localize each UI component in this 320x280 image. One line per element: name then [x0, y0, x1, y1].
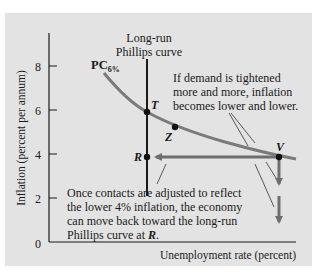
point-T	[144, 109, 150, 115]
note-adjust-line2: the lower 4% inflation, the economy	[67, 200, 242, 214]
lrpc-label-line2: Phillips curve	[116, 45, 182, 59]
y-axis-label: Inflation (percent per annum)	[15, 70, 28, 206]
label-V: V	[276, 140, 285, 154]
lrpc-label-line1: Long-run	[126, 31, 171, 45]
label-R: R	[133, 150, 142, 164]
note-tighten-line2: more and more, inflation	[173, 85, 292, 99]
point-R	[144, 154, 150, 160]
y-tick-2: 2	[35, 192, 41, 206]
y-tick-8: 8	[35, 60, 41, 74]
y-tick-0: 0	[35, 237, 41, 251]
point-V	[276, 154, 282, 160]
point-Z	[172, 124, 178, 130]
y-tick-4: 4	[35, 148, 41, 162]
note-adjust-line1: Once contacts are adjusted to reflect	[67, 186, 242, 200]
note-tighten-line3: becomes lower and lower.	[173, 99, 298, 113]
y-tick-6: 6	[35, 104, 41, 118]
note-adjust-line3: can move back toward the long-run	[67, 214, 237, 228]
note-adjust-line4: Phillips curve at R.	[67, 228, 159, 242]
phillips-curve-chart: 8 6 4 2 0 Inflation (percent per annum) …	[0, 0, 320, 280]
pc-label: PC6%	[91, 58, 120, 74]
note-adjust-leader	[157, 164, 166, 184]
label-Z: Z	[164, 130, 173, 144]
note-tighten-line1: If demand is tightened	[173, 71, 281, 85]
label-T: T	[151, 98, 159, 112]
x-axis-label: Unemployment rate (percent)	[160, 249, 296, 262]
